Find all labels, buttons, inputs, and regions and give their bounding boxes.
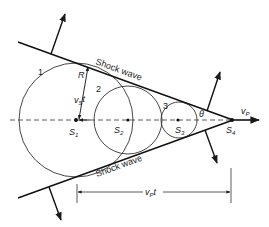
shock-wave-label-lower: Shock wave [94, 153, 143, 179]
sound-distance-label: vSt [74, 94, 86, 106]
source-distance-label: vPt [145, 187, 157, 198]
source-label-s2: S2 [114, 125, 124, 136]
source-dot-s4 [230, 118, 234, 122]
angle-label-theta: θ [199, 109, 204, 119]
circle-label-3: 3 [163, 101, 168, 111]
source-label-s3: S3 [175, 125, 185, 136]
source-label-s4: S4 [226, 125, 236, 136]
source-dot-s3 [176, 118, 179, 121]
normal-arrow-lower-left [49, 187, 61, 220]
source-velocity-label: vP [241, 106, 250, 117]
source-dot-s1 [74, 118, 78, 122]
shock-wave-diagram: 1 2 3 R Shock wave Shock wave vSt S1 S2 … [0, 0, 269, 227]
radius-label: R [78, 70, 85, 80]
circle-label-1: 1 [38, 67, 43, 77]
circle-label-2: 2 [96, 84, 101, 94]
normal-arrow-upper-left [51, 14, 65, 54]
normal-arrow-lower-right [205, 130, 217, 163]
normal-arrow-upper-right [207, 72, 220, 111]
source-dot-s2 [126, 118, 129, 121]
source-label-s1: S1 [69, 127, 78, 138]
